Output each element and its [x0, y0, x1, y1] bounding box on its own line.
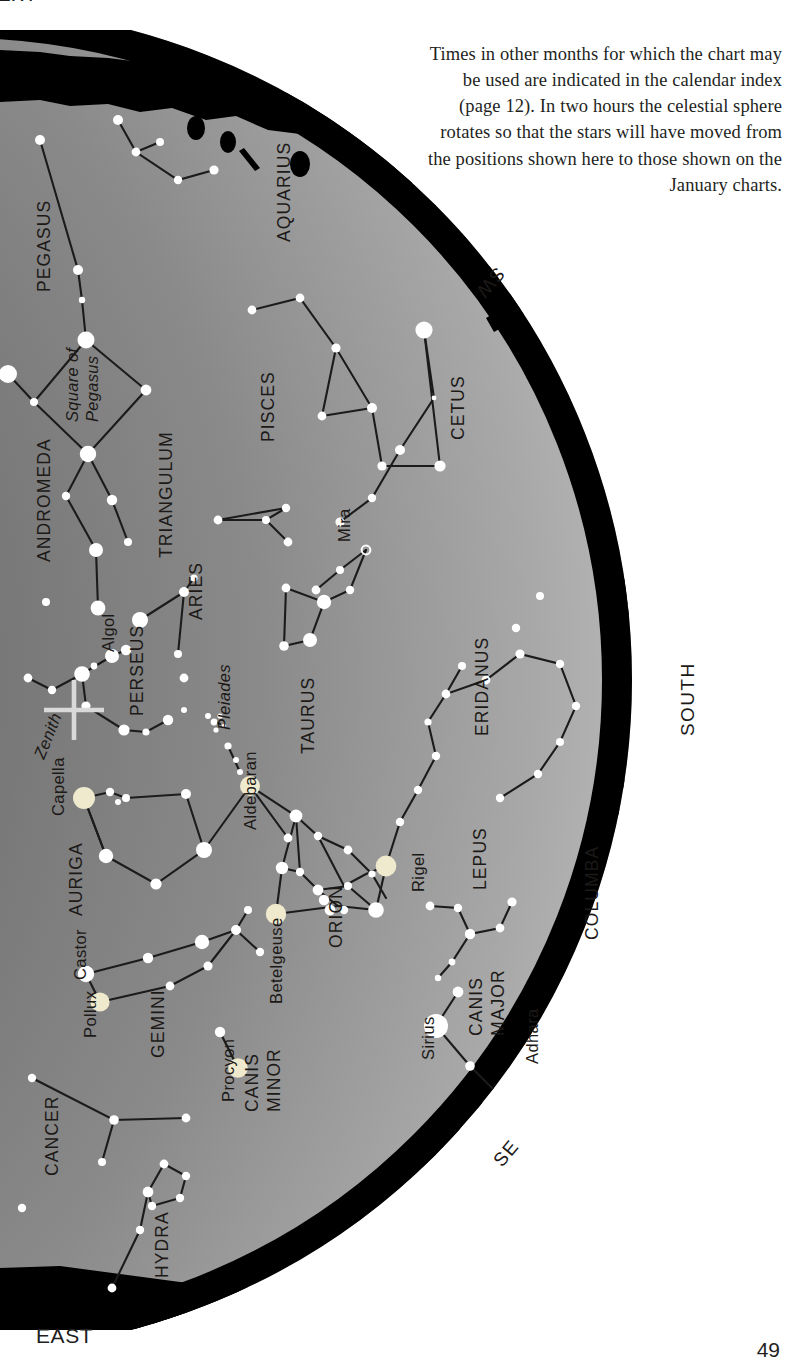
label-south: SOUTH: [677, 663, 698, 737]
label-pisces: PISCES: [258, 371, 278, 442]
label-cetus: CETUS: [448, 375, 468, 440]
label-triangulum: TRIANGULUM: [156, 431, 176, 558]
label-taurus: TAURUS: [298, 677, 318, 754]
label-square-of-pegasus: Square of: [63, 346, 81, 422]
label-canis-minor-2: MINOR: [264, 1048, 284, 1112]
label-auriga: AURIGA: [66, 842, 86, 916]
label-square-of-pegasus-2: Pegasus: [83, 356, 101, 422]
label-algol: Algol: [99, 613, 117, 652]
page-number: 49: [757, 1338, 780, 1362]
label-hydra: HYDRA: [152, 1211, 172, 1278]
label-mira: Mira: [335, 508, 353, 542]
star-adhara: [500, 1096, 513, 1109]
cardinal-label-west: WEST: [0, 0, 32, 6]
label-betelgeuse: Betelgeuse: [267, 917, 285, 1004]
label-canis-minor: CANIS: [242, 1053, 262, 1112]
label-andromeda: ANDROMEDA: [34, 438, 54, 562]
label-cancer: CANCER: [42, 1096, 62, 1177]
label-pleiades: Pleiades: [215, 664, 233, 730]
label-aquarius: AQUARIUS: [274, 142, 294, 242]
label-capella: Capella: [49, 757, 67, 816]
label-sirius: Sirius: [419, 1016, 437, 1060]
label-canis-major-2: MAJOR: [488, 969, 508, 1036]
label-procyon: Procyon: [219, 1039, 237, 1102]
label-canis-major: CANIS: [466, 977, 486, 1036]
star-capella: [73, 787, 95, 809]
label-orion: ORION: [326, 885, 346, 948]
label-eridanus: ERIDANUS: [472, 637, 492, 736]
label-pegasus: PEGASUS: [34, 200, 54, 292]
label-lepus: LEPUS: [470, 827, 490, 890]
sky-dome: PEGASUS ANDROMEDA AQUARIUS PISCES CETUS …: [0, 30, 760, 1330]
star-rigel: [376, 856, 397, 877]
label-pollux: Pollux: [81, 990, 99, 1038]
label-aries: ARIES: [186, 562, 206, 620]
label-gemini: GEMINI: [148, 989, 168, 1058]
label-columba: COLUMBA: [582, 846, 602, 940]
star-chart-page: Times in other months for which the char…: [0, 0, 796, 1370]
label-castor: Castor: [71, 929, 89, 980]
label-adhara: Adhara: [523, 1008, 541, 1064]
cardinal-label-east: EAST: [36, 1324, 93, 1348]
label-aldebaran: Aldebaran: [241, 751, 259, 830]
label-perseus: PERSEUS: [127, 625, 147, 716]
label-southeast: SE: [489, 1136, 523, 1171]
sky-dome-svg: PEGASUS ANDROMEDA AQUARIUS PISCES CETUS …: [0, 30, 760, 1330]
label-rigel: Rigel: [409, 852, 427, 892]
